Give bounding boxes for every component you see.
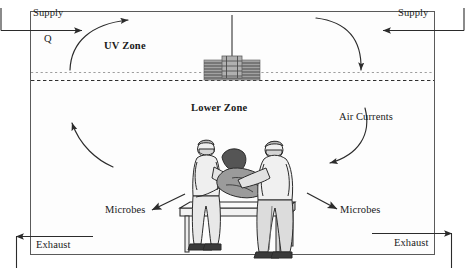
label-exhaust-left: Exhaust — [36, 240, 71, 251]
label-supply-left: Supply — [33, 8, 63, 19]
diagram-canvas: Supply Q Supply UV Zone Lower Zone Air C… — [0, 0, 465, 276]
diagram-svg — [0, 0, 465, 276]
label-microbes-left: Microbes — [105, 205, 145, 216]
label-air-currents: Air Currents — [339, 112, 393, 123]
label-supply-right: Supply — [398, 8, 428, 19]
label-microbes-right: Microbes — [340, 205, 380, 216]
label-exhaust-right: Exhaust — [394, 238, 429, 249]
label-uv-zone: UV Zone — [104, 41, 146, 52]
label-flow-rate-q: Q — [44, 34, 52, 45]
label-lower-zone: Lower Zone — [191, 103, 247, 114]
